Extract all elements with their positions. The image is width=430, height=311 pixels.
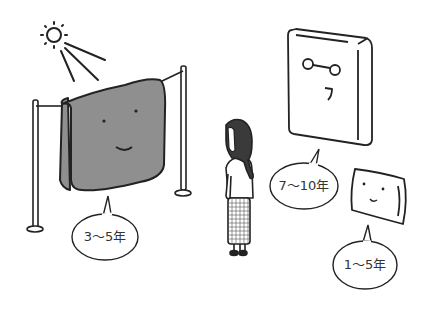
mattress-character (288, 29, 372, 145)
futon-character (60, 79, 165, 190)
speech-bubble-futon (72, 196, 138, 260)
pillow-lifespan-label: 1〜5年 (333, 257, 397, 273)
futon-lifespan-label: 3〜5年 (72, 229, 138, 245)
mattress-lifespan-label: 7〜10年 (270, 178, 338, 194)
woman-character (226, 120, 253, 256)
pillow-character (351, 169, 405, 224)
sun-icon (41, 22, 105, 81)
